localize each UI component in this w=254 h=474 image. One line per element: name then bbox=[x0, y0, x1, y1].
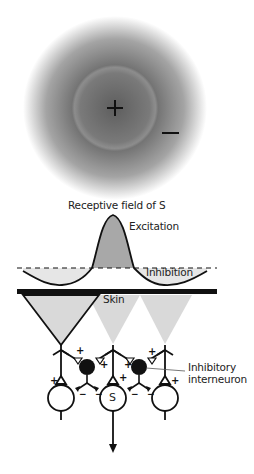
relay-neuron-right bbox=[152, 385, 178, 411]
skin-label: Skin bbox=[103, 293, 125, 305]
inhibitory-interneuron-left bbox=[79, 359, 95, 375]
figure-graphics bbox=[0, 0, 254, 474]
receptive-cone-left bbox=[23, 295, 99, 345]
output-arrow-icon bbox=[109, 444, 117, 453]
relay-synapses bbox=[56, 376, 170, 384]
interneuron-label-line1: Inhibitory bbox=[188, 361, 236, 373]
inhibitory-sign: − bbox=[79, 389, 87, 399]
excitatory-sign: + bbox=[119, 372, 127, 383]
inhibition-label: Inhibition bbox=[146, 266, 193, 278]
receptive-field-caption: Receptive field of S bbox=[68, 199, 165, 211]
excitatory-sign: + bbox=[76, 345, 84, 356]
excitatory-sign: + bbox=[124, 359, 132, 370]
inhibitory-sign: − bbox=[131, 389, 139, 399]
excitatory-sign: + bbox=[148, 346, 156, 357]
excitatory-sign: + bbox=[171, 375, 179, 386]
excitatory-sign: + bbox=[100, 359, 108, 370]
interneuron-label-line2: interneuron bbox=[188, 373, 247, 385]
relay-neuron-left bbox=[48, 385, 74, 411]
inhibitory-sign: − bbox=[95, 389, 103, 399]
inhibitory-sign: − bbox=[147, 389, 155, 399]
inhibitory-interneuron-right bbox=[131, 359, 147, 375]
excitatory-sign: + bbox=[50, 375, 58, 386]
excitation-label: Excitation bbox=[129, 220, 179, 232]
output-axons bbox=[61, 411, 165, 446]
receptive-cone-right bbox=[140, 295, 192, 344]
relay-neuron-s-label: S bbox=[109, 392, 116, 404]
lateral-inhibition-figure: Receptive field of S Excitation Inhibiti… bbox=[0, 0, 254, 474]
